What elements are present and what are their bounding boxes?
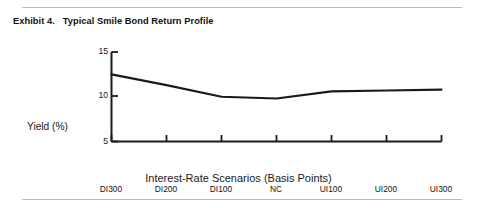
chart-plot-area: 15 10 5 DI300 DI200 DI100 NC UI100 UI200…	[0, 36, 477, 156]
x-axis-tick-label-di100: DI100	[195, 184, 247, 194]
x-axis-tick-label-ui100: UI100	[305, 184, 357, 194]
y-axis-tick-label-10: 10	[84, 90, 108, 100]
x-axis-tick-label-di200: DI200	[140, 184, 192, 194]
bottom-divider-rule	[22, 199, 462, 200]
exhibit-figure: Exhibit 4. Typical Smile Bond Return Pro…	[0, 0, 477, 208]
x-axis-title: Interest-Rate Scenarios (Basis Points)	[0, 172, 477, 184]
y-axis-tick-label-5: 5	[84, 136, 108, 146]
y-axis-title: Yield (%)	[27, 121, 68, 132]
x-axis-tick-label-ui300: UI300	[415, 184, 467, 194]
top-divider-rule	[22, 7, 462, 8]
x-axis-tick-label-nc: NC	[250, 184, 302, 194]
yield-curve-line	[112, 74, 442, 98]
x-axis-tick-label-di300: DI300	[85, 184, 137, 194]
line-chart-svg	[0, 36, 477, 156]
exhibit-title: Exhibit 4. Typical Smile Bond Return Pro…	[13, 16, 214, 26]
x-axis-tick-label-ui200: UI200	[360, 184, 412, 194]
y-axis-tick-label-15: 15	[84, 46, 108, 56]
